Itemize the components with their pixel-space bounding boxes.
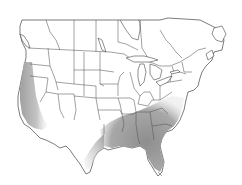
land-outline bbox=[18, 18, 224, 176]
range-map bbox=[0, 0, 242, 185]
